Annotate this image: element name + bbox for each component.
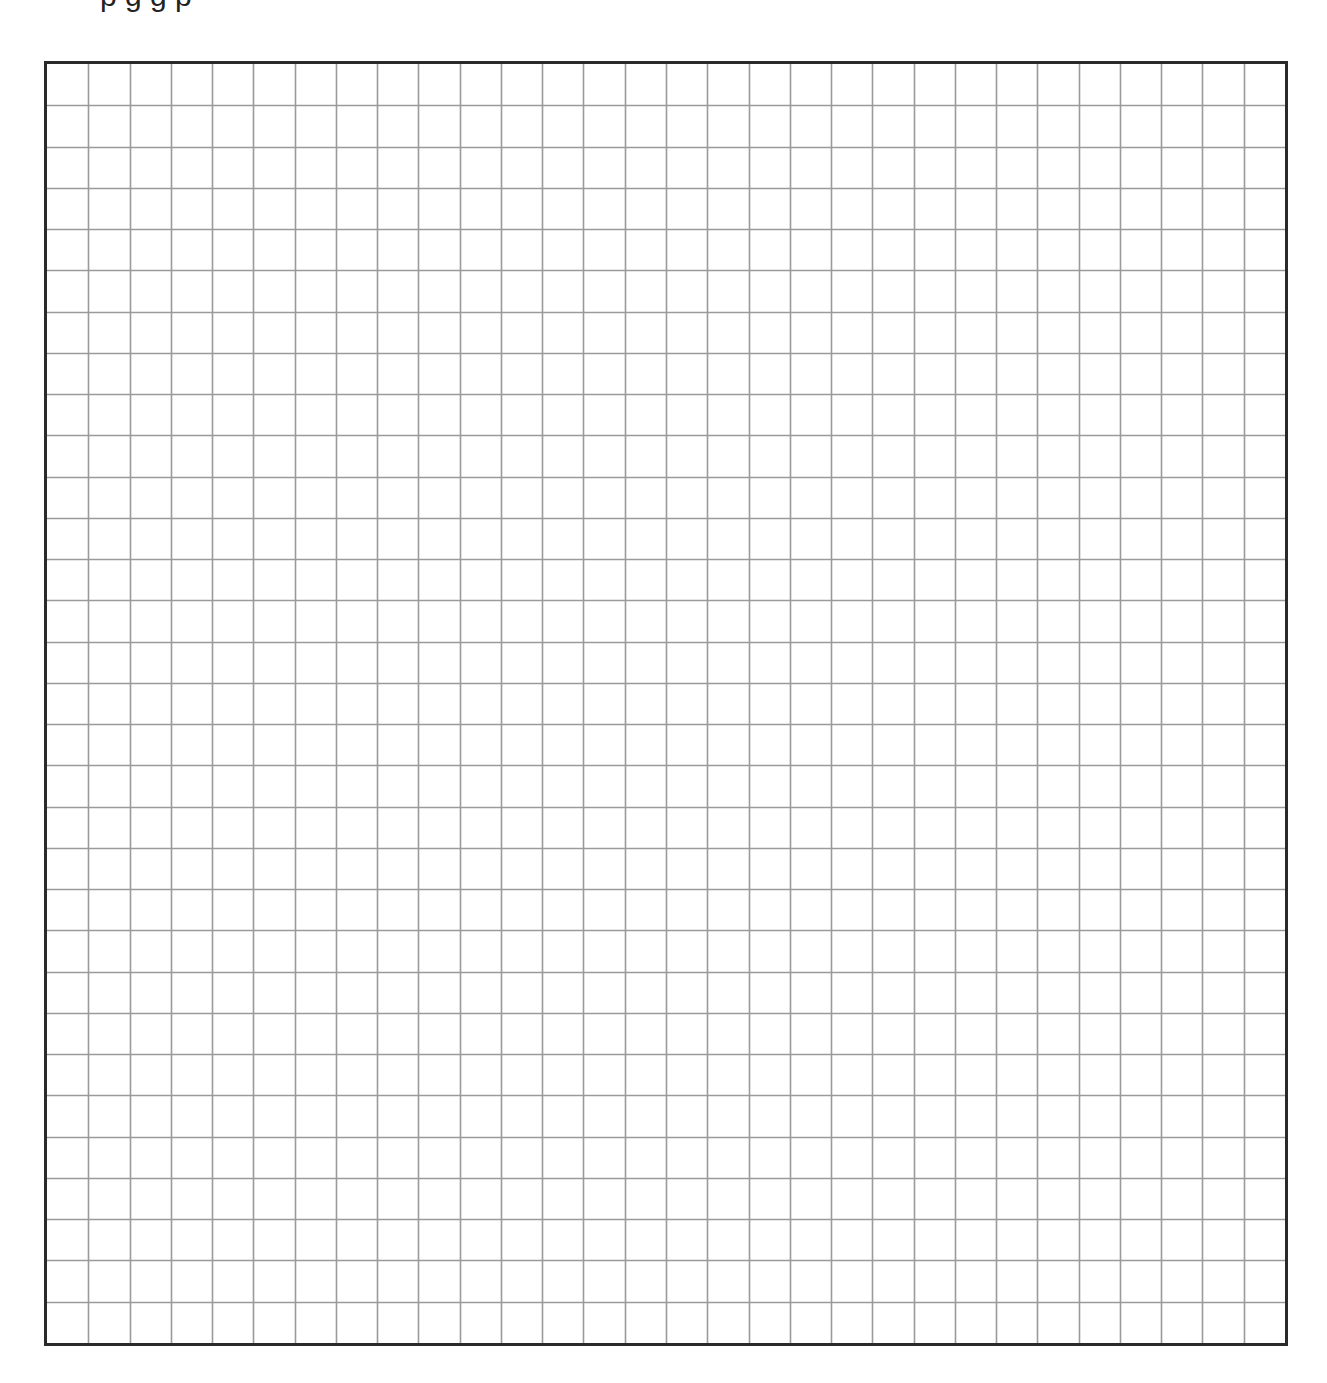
clipped-heading-text: p g g p	[100, 0, 1200, 16]
graph-paper-grid: Blank square graph-paper grid	[44, 61, 1288, 1346]
grid-lines	[47, 64, 1285, 1343]
